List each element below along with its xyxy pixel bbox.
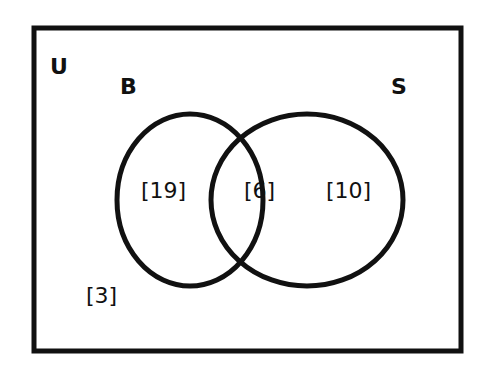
set-s-circle bbox=[211, 114, 403, 286]
region-s-only: [10] bbox=[326, 178, 371, 203]
region-intersection: [6] bbox=[244, 178, 275, 203]
set-s-label: S bbox=[391, 74, 407, 99]
region-b-only: [19] bbox=[141, 178, 186, 203]
set-b-label: B bbox=[120, 74, 137, 99]
region-outside: [3] bbox=[86, 283, 117, 308]
universe-label: U bbox=[50, 54, 68, 79]
venn-diagram bbox=[0, 0, 480, 368]
